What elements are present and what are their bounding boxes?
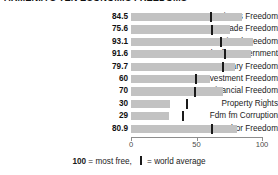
bar-track [131,61,278,73]
value-label: 93.1 [104,36,128,48]
world-average-tick [194,87,196,97]
chart-row: Trade Freedom75.6 [0,23,278,35]
chart-title-clipped: ARMENIA'S TEN ECONOMIC FREEDOMS [4,0,244,7]
value-bar [131,100,170,108]
chart-rows: Business Freedom84.5Trade Freedom75.6Fis… [0,11,278,135]
world-average-tick [211,124,213,134]
bar-track [131,23,278,35]
axis-tick-label: 0 [129,140,133,149]
page-title: ARMENIA'S TEN ECONOMIC FREEDOMS [4,0,187,3]
chart-footnote: 100 = most free, = world average [0,156,278,166]
chart-row: Fdm fm Government91.6 [0,48,278,60]
bar-track [131,123,278,135]
value-label: 84.5 [104,11,128,23]
scale-max-value: 100 [72,157,86,166]
chart-row: Financial Freedom70 [0,85,278,97]
value-bar [131,63,235,71]
scale-max-text: = most free, [86,157,132,166]
bar-track [131,36,278,48]
value-bar [131,50,251,58]
world-average-tick [195,74,197,84]
value-label: 80.9 [104,123,128,135]
chart-row: Property Rights30 [0,98,278,110]
value-bar [131,87,223,95]
bar-track [131,98,278,110]
world-average-tick [224,49,226,59]
world-average-tick [210,12,212,22]
bar-track [131,48,278,60]
world-average-tick [220,37,222,47]
value-bar [131,112,169,120]
chart-row: Fiscal Freedom93.1 [0,36,278,48]
value-label: 79.7 [104,61,128,73]
value-label: 70 [104,85,128,97]
chart-row: Investment Freedom60 [0,73,278,85]
world-average-tick [211,25,213,35]
axis-tick-label: 50 [192,140,200,149]
economic-freedoms-chart: ARMENIA'S TEN ECONOMIC FREEDOMS Business… [0,0,278,175]
world-average-tick [222,62,224,72]
bar-track [131,110,278,122]
bar-track [131,11,278,23]
world-average-tick [186,99,188,109]
world-average-legend-icon [140,156,142,165]
bar-track [131,85,278,97]
value-label: 91.6 [104,48,128,60]
world-average-tick [182,111,184,121]
chart-row: Monetary Freedom79.7 [0,61,278,73]
value-bar [131,13,242,21]
value-label: 30 [104,98,128,110]
value-label: 75.6 [104,23,128,35]
chart-row: Business Freedom84.5 [0,11,278,23]
world-average-legend-label: = world average [145,157,206,166]
chart-row: Labor Freedom80.9 [0,123,278,135]
value-label: 60 [104,73,128,85]
chart-row: Fdm fm Corruption29 [0,110,278,122]
value-label: 29 [104,110,128,122]
value-bar [131,38,253,46]
value-bar [131,125,237,133]
value-bar [131,75,210,83]
axis-tick-label: 100 [256,140,269,149]
bar-track [131,73,278,85]
value-bar [131,25,230,33]
